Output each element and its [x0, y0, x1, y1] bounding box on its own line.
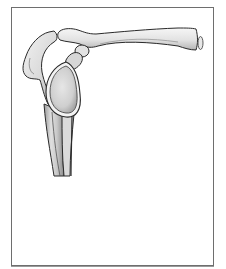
clavicle-cut-end	[198, 37, 203, 50]
shoulder-illustration	[0, 0, 226, 269]
glenoid-fossa	[46, 62, 80, 117]
